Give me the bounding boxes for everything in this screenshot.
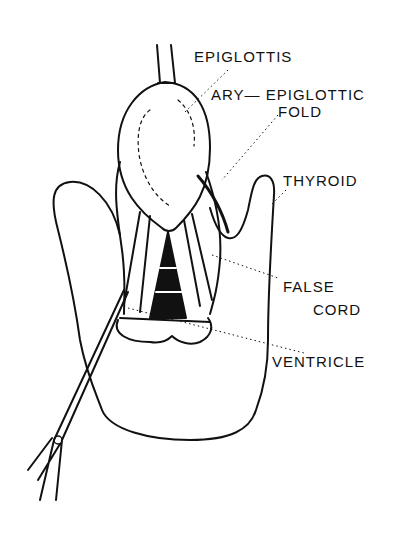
label-ventricle: VENTRICLE [272,354,365,370]
glottis [150,232,186,318]
label-epiglottis: EPIGLOTTIS [194,49,292,65]
larynx-diagram [0,0,418,548]
leader-thyroid [270,190,286,206]
retractor [157,45,175,83]
label-ary-epiglottic-fold-line2: FOLD [278,104,322,120]
label-false-cord-line2: CORD [313,302,361,318]
label-false-cord-line1: FALSE [283,279,335,295]
leader-ventricle [128,308,304,353]
label-ary-epiglottic-fold-line1: ARY— EPIGLOTTIC [211,87,365,103]
epiglottis [118,82,210,231]
leader-ary-epiglottic [222,115,278,180]
label-thyroid: THYROID [283,173,358,189]
leader-false-cord [212,255,278,278]
